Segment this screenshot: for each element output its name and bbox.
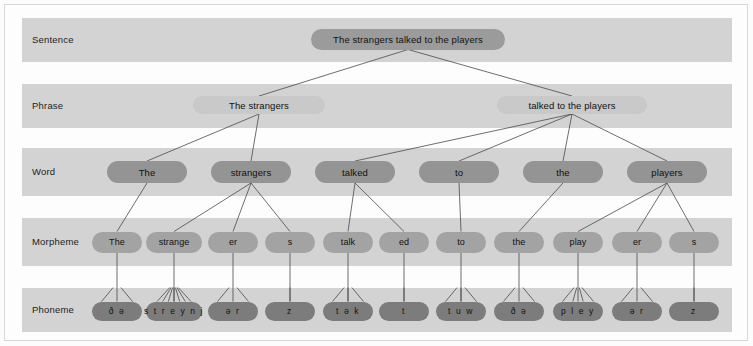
- band-label-phoneme: Phoneme: [32, 304, 74, 315]
- phoneme-node: p l e y: [553, 302, 603, 321]
- phoneme-node: ð ə: [92, 302, 142, 321]
- sentence-node: The strangers talked to the players: [311, 29, 505, 50]
- phoneme-node: z: [265, 302, 315, 321]
- morpheme-node: er: [208, 232, 258, 253]
- phoneme-node: z: [669, 302, 719, 321]
- morpheme-node: s: [265, 232, 315, 253]
- word-node: strangers: [211, 161, 291, 183]
- word-node: players: [627, 161, 707, 183]
- morpheme-node: ed: [379, 232, 429, 253]
- morpheme-node: to: [436, 232, 486, 253]
- phoneme-node: ð ə: [494, 302, 544, 321]
- morpheme-node: the: [494, 232, 544, 253]
- phoneme-node: ə r: [612, 302, 662, 321]
- word-node: to: [419, 161, 499, 183]
- phoneme-node: t: [379, 302, 429, 321]
- phoneme-node: t u w: [436, 302, 486, 321]
- phrase-node: talked to the players: [497, 96, 647, 114]
- word-node: The: [107, 161, 187, 183]
- word-node: talked: [315, 161, 395, 183]
- morpheme-node: The: [92, 232, 142, 253]
- band-label-phrase: Phrase: [32, 100, 63, 111]
- band-label-word: Word: [32, 166, 55, 177]
- morpheme-node: talk: [323, 232, 373, 253]
- band-label-morpheme: Morpheme: [32, 236, 79, 247]
- morpheme-node: strange: [146, 232, 202, 253]
- band-label-sentence: Sentence: [32, 34, 74, 45]
- phoneme-node: ə r: [208, 302, 258, 321]
- morpheme-node: s: [669, 232, 719, 253]
- phrase-node: The strangers: [193, 96, 325, 114]
- phoneme-node: s t r e y n j: [146, 302, 202, 321]
- word-node: the: [523, 161, 603, 183]
- morpheme-node: play: [553, 232, 603, 253]
- linguistic-hierarchy-figure: SentencePhraseWordMorphemePhoneme The st…: [0, 0, 753, 346]
- morpheme-node: er: [612, 232, 662, 253]
- phoneme-node: t ə k: [323, 302, 373, 321]
